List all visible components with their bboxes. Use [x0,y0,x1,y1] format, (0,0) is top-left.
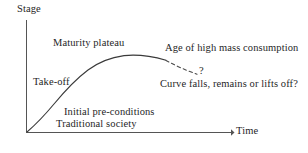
annotation-curve-falls-remains-or-lifts-off: Curve falls, remains or lifts off? [160,79,298,90]
annotation-traditional-society: Traditional society [56,119,137,130]
annotation-take-off: Take-off [33,77,70,88]
annotation-initial-pre-conditions: Initial pre-conditions [64,107,155,118]
annotation-age-of-high-mass-consumption: Age of high mass consumption [165,43,298,54]
y-axis-label: Stage [17,4,41,15]
annotation-question-mark: ? [199,66,204,77]
figure-canvas: Stage Time Maturity plateau Age of high … [0,0,308,153]
x-axis-label: Time [236,126,258,137]
uncertain-future-dashed-curve [166,60,197,74]
x-axis-arrow-icon [231,129,235,135]
annotation-maturity-plateau: Maturity plateau [53,38,124,49]
